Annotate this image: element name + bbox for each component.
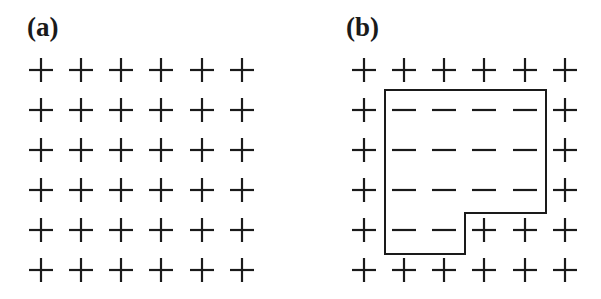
plus-sign-icon [230, 258, 254, 282]
plus-sign-icon [472, 58, 496, 82]
panel-b-grid [352, 58, 577, 282]
plus-sign-icon [230, 218, 254, 242]
plus-sign-icon [29, 98, 53, 122]
plus-sign-icon [149, 138, 173, 162]
plus-sign-icon [29, 218, 53, 242]
plus-sign-icon [352, 138, 376, 162]
plus-sign-icon [69, 98, 93, 122]
plus-sign-icon [432, 58, 456, 82]
panel-a-grid [29, 58, 254, 282]
plus-sign-icon [553, 258, 577, 282]
plus-sign-icon [392, 58, 416, 82]
plus-sign-icon [352, 218, 376, 242]
plus-sign-icon [69, 58, 93, 82]
plus-sign-icon [190, 218, 214, 242]
plus-sign-icon [69, 218, 93, 242]
plus-sign-icon [149, 218, 173, 242]
plus-sign-icon [29, 138, 53, 162]
plus-sign-icon [553, 218, 577, 242]
plus-sign-icon [109, 138, 133, 162]
plus-sign-icon [149, 258, 173, 282]
plus-sign-icon [230, 178, 254, 202]
plus-sign-icon [109, 218, 133, 242]
plus-sign-icon [553, 138, 577, 162]
plus-sign-icon [109, 98, 133, 122]
plus-sign-icon [69, 138, 93, 162]
plus-sign-icon [190, 58, 214, 82]
plus-sign-icon [109, 58, 133, 82]
plus-sign-icon [230, 58, 254, 82]
plus-sign-icon [149, 178, 173, 202]
plus-sign-icon [149, 98, 173, 122]
plus-sign-icon [513, 218, 537, 242]
plus-sign-icon [553, 58, 577, 82]
plus-sign-icon [69, 178, 93, 202]
plus-sign-icon [29, 258, 53, 282]
plus-sign-icon [29, 58, 53, 82]
plus-sign-icon [553, 178, 577, 202]
plus-sign-icon [190, 98, 214, 122]
sign-grid-diagram [0, 0, 601, 299]
plus-sign-icon [190, 258, 214, 282]
plus-sign-icon [432, 258, 456, 282]
plus-sign-icon [513, 258, 537, 282]
plus-sign-icon [109, 258, 133, 282]
plus-sign-icon [190, 138, 214, 162]
plus-sign-icon [230, 98, 254, 122]
plus-sign-icon [513, 58, 537, 82]
plus-sign-icon [352, 58, 376, 82]
plus-sign-icon [149, 58, 173, 82]
plus-sign-icon [352, 178, 376, 202]
plus-sign-icon [69, 258, 93, 282]
plus-sign-icon [392, 258, 416, 282]
plus-sign-icon [352, 98, 376, 122]
plus-sign-icon [230, 138, 254, 162]
plus-sign-icon [472, 258, 496, 282]
plus-sign-icon [109, 178, 133, 202]
plus-sign-icon [553, 98, 577, 122]
plus-sign-icon [190, 178, 214, 202]
plus-sign-icon [29, 178, 53, 202]
plus-sign-icon [472, 218, 496, 242]
plus-sign-icon [352, 258, 376, 282]
